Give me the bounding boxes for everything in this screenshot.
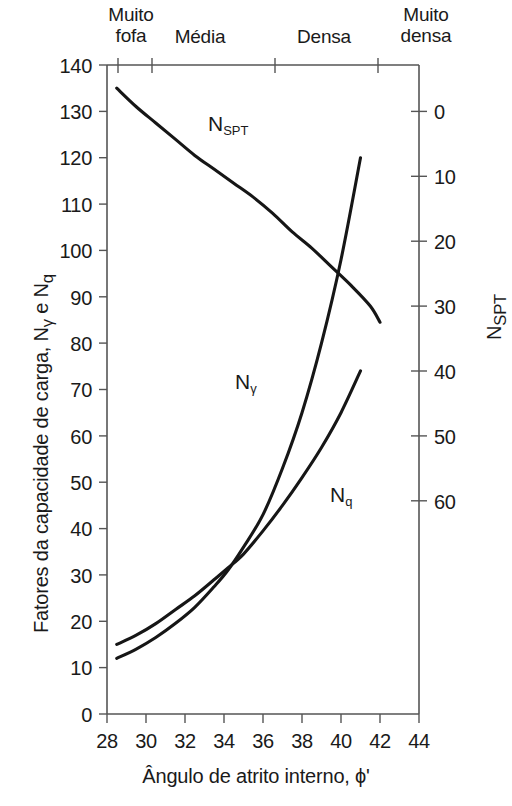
xtick-label-38: 38 — [280, 731, 324, 751]
xtick-label-36: 36 — [241, 731, 285, 751]
curve-annotation-nq: Nq — [330, 483, 352, 507]
curve-annotation-nq-base: N — [330, 483, 345, 506]
curve-annotation-ngamma-base: N — [235, 370, 250, 393]
ytick-label-0: 0 — [36, 705, 92, 725]
y-axis-title-left-text: Fatores da capacidade de carga, N — [30, 327, 52, 633]
ytick-label-140: 140 — [36, 56, 92, 76]
curve-n — [117, 158, 361, 659]
xtick-label-28: 28 — [85, 731, 129, 751]
y-axis-title-left: Fatores da capacidade de carga, Nγ e Nq — [30, 274, 53, 633]
ytick-label-120: 120 — [36, 148, 92, 168]
bottom-axis-ticks — [107, 714, 419, 723]
ytick-right-label-0: 0 — [434, 102, 480, 122]
y-axis-title-left-sub-q: q — [38, 274, 57, 283]
y-axis-title-left-mid: e N — [30, 283, 52, 319]
curve-annotation-nspt-sub: SPT — [223, 123, 248, 138]
plot-frame — [107, 65, 419, 714]
ytick-label-110: 110 — [36, 195, 92, 215]
curve-annotation-nspt: NSPT — [208, 112, 248, 136]
xtick-label-42: 42 — [358, 731, 402, 751]
xtick-label-32: 32 — [163, 731, 207, 751]
y-axis-title-right: NSPT — [483, 294, 506, 340]
x-axis-title: Ângulo de atrito interno, ϕ' — [0, 765, 512, 788]
ytick-label-10: 10 — [36, 658, 92, 678]
curve-annotation-ngamma-sub: γ — [250, 381, 257, 396]
xtick-label-40: 40 — [319, 731, 363, 751]
top-zone-axis — [107, 58, 419, 73]
ytick-right-label-60: 60 — [434, 492, 480, 512]
ytick-label-100: 100 — [36, 241, 92, 261]
y-axis-title-right-sub: SPT — [491, 294, 510, 326]
left-axis-ticks — [99, 65, 107, 714]
bearing-capacity-factors-chart: Muito fofa Média Densa Muito densa — [0, 0, 512, 806]
curve-nq — [117, 371, 361, 645]
ytick-right-label-50: 50 — [434, 427, 480, 447]
ytick-right-label-10: 10 — [434, 167, 480, 187]
ytick-right-label-30: 30 — [434, 297, 480, 317]
curve-annotation-ngamma: Nγ — [235, 370, 257, 394]
curve-annotation-nspt-base: N — [208, 112, 223, 135]
xtick-label-44: 44 — [397, 731, 441, 751]
xtick-label-30: 30 — [124, 731, 168, 751]
ytick-right-label-40: 40 — [434, 362, 480, 382]
ytick-label-130: 130 — [36, 102, 92, 122]
y-axis-title-left-sub-gamma: γ — [38, 319, 57, 327]
curve-annotation-nq-sub: q — [345, 494, 352, 509]
y-axis-title-right-text: N — [483, 326, 505, 340]
xtick-label-34: 34 — [202, 731, 246, 751]
ytick-right-label-20: 20 — [434, 232, 480, 252]
